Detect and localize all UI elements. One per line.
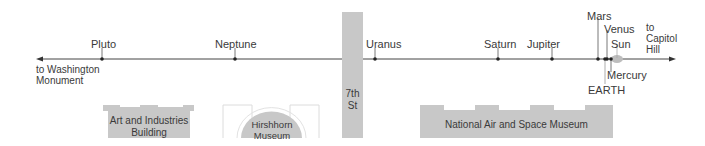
- left-arrow-icon: [36, 57, 43, 62]
- earth-label: EARTH: [588, 84, 625, 96]
- earth-marker: [603, 57, 607, 61]
- hirshhorn-museum-label: Hirshhorn Museum: [246, 119, 298, 141]
- uranus-label: Uranus: [366, 38, 401, 50]
- neptune-marker: [233, 57, 237, 61]
- street-line1: 7th: [342, 88, 363, 100]
- art-and-industries-label: Art and Industries Building: [108, 115, 190, 139]
- capitol-hill-label: to Capitol Hill: [646, 22, 677, 55]
- washington-monument-label: to Washington Monument: [36, 64, 100, 86]
- pluto-label: Pluto: [91, 38, 116, 50]
- 7th-street-label: 7th St: [342, 88, 363, 112]
- pluto-marker: [100, 57, 104, 61]
- saturn-label: Saturn: [484, 38, 516, 50]
- right-arrow-icon: [669, 57, 676, 62]
- jupiter-marker: [550, 57, 554, 61]
- mercury-marker: [609, 57, 613, 61]
- left-destination-line1: to Washington: [36, 64, 100, 75]
- 7th-street-block: [342, 12, 363, 138]
- left-destination-line2: Monument: [36, 75, 100, 86]
- air-space-line1: National Air and Space Museum: [420, 119, 613, 131]
- art-industries-line1: Art and Industries: [108, 115, 190, 127]
- saturn-marker: [496, 57, 500, 61]
- hirshhorn-line2: Museum: [246, 130, 298, 141]
- mercury-label: Mercury: [607, 69, 647, 81]
- mars-marker: [596, 57, 600, 61]
- right-destination-line3: Hill: [646, 44, 677, 55]
- right-destination-line1: to: [646, 22, 677, 33]
- art-industries-line2: Building: [108, 127, 190, 139]
- jupiter-label: Jupiter: [527, 38, 560, 50]
- mars-label: Mars: [587, 10, 611, 22]
- neptune-label: Neptune: [215, 38, 257, 50]
- venus-label: Venus: [604, 23, 635, 35]
- uranus-marker: [373, 57, 377, 61]
- sun-label: Sun: [611, 38, 631, 50]
- air-and-space-museum-label: National Air and Space Museum: [420, 119, 613, 131]
- street-line2: St: [342, 100, 363, 112]
- hirshhorn-line1: Hirshhorn: [246, 119, 298, 130]
- right-destination-line2: Capitol: [646, 33, 677, 44]
